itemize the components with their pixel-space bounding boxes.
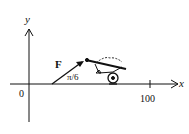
angle-label: π/6 [67, 73, 79, 82]
y-axis [25, 29, 33, 122]
wheelbarrow-icon [85, 58, 126, 84]
x-axis [10, 80, 178, 88]
tick-100-label: 100 [140, 94, 155, 104]
force-label: F [55, 59, 62, 70]
origin-label: 0 [19, 89, 24, 99]
x-axis-label: x [179, 78, 184, 89]
y-axis-label: y [25, 14, 30, 25]
